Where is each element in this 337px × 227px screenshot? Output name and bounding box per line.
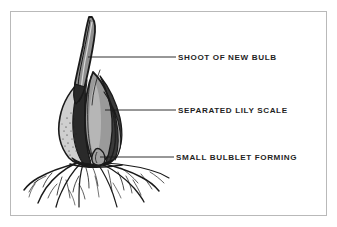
callout-label-separated-lily-scale: SEPARATED LILY SCALE (178, 107, 288, 115)
callout-label-small-bulblet-forming: SMALL BULBLET FORMING (176, 154, 297, 162)
root-system (24, 163, 169, 207)
figure-root: SHOOT OF NEW BULB SEPARATED LILY SCALE S… (0, 0, 337, 227)
callout-label-shoot-of-new-bulb: SHOOT OF NEW BULB (178, 54, 277, 62)
